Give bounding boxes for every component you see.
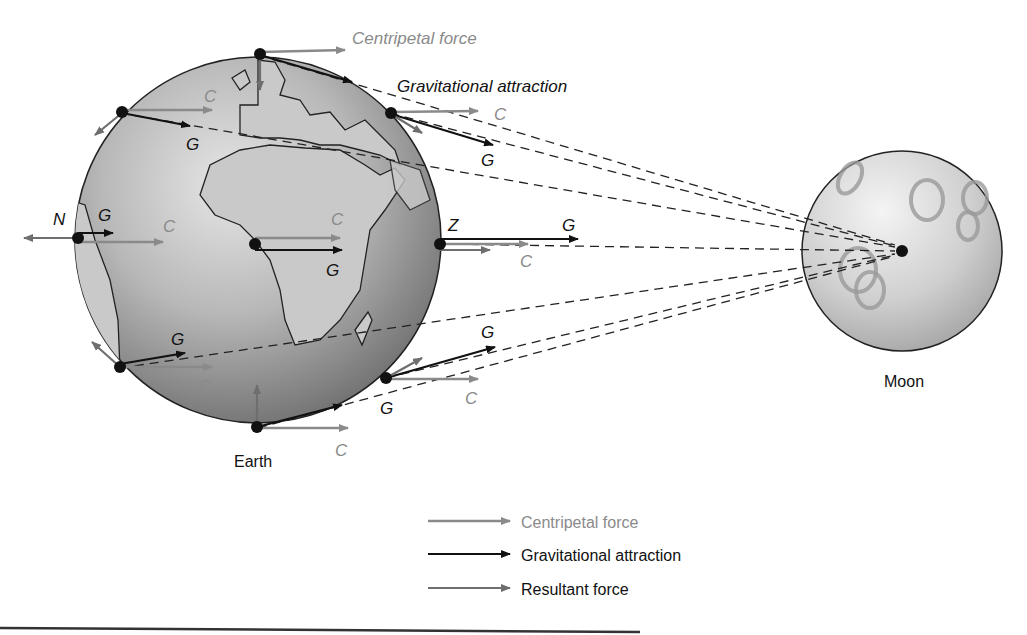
vector-label-g: G (481, 151, 494, 170)
vector-label-g: G (171, 330, 184, 349)
vector-label-c: C (494, 105, 507, 124)
legend-resultant: Resultant force (521, 581, 629, 598)
vector-label-c: C (163, 217, 176, 236)
bottom-rule (0, 628, 640, 632)
vector-label-g: G (186, 135, 199, 154)
moon-center-dot (896, 245, 908, 257)
vector-label-g: G (562, 216, 575, 235)
legend: Centripetal force Gravitational attracti… (428, 514, 681, 598)
tide-force-diagram: Centripetal force Gravitational attracti… (0, 0, 1027, 635)
vector-label-n: N (53, 210, 66, 229)
vector-label-g: G (326, 261, 339, 280)
vector-label-g: G (380, 399, 393, 418)
vector-label-c: C (465, 389, 478, 408)
vector-label-g: G (481, 323, 494, 342)
moon (802, 151, 1002, 351)
centripetal-force-label: Centripetal force (352, 29, 477, 48)
earth-label: Earth (234, 453, 272, 470)
vector-label-z: Z (447, 216, 459, 235)
gravitational-attraction-label: Gravitational attraction (397, 77, 567, 96)
legend-gravitational: Gravitational attraction (521, 547, 681, 564)
vector-label-c: C (520, 252, 533, 271)
vector-label-c: C (335, 441, 348, 460)
vector-label-c: C (199, 377, 212, 396)
vector-label-c: C (204, 87, 217, 106)
vector-label-g: G (98, 206, 111, 225)
vector-label-c: C (331, 210, 344, 229)
legend-centripetal: Centripetal force (521, 514, 638, 531)
moon-label: Moon (884, 373, 924, 390)
